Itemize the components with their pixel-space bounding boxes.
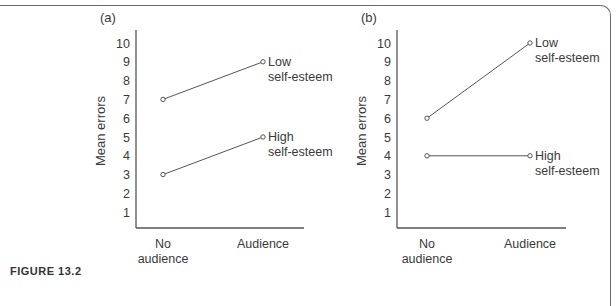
x-tick-label: No [419, 237, 435, 251]
y-tick-label: 4 [123, 149, 130, 163]
y-tick-label: 2 [384, 187, 391, 201]
x-tick-label: No [155, 237, 171, 251]
y-tick-label: 3 [123, 168, 130, 182]
x-tick-label: Audience [237, 237, 289, 251]
data-point-marker [425, 154, 429, 158]
series-line [163, 137, 263, 175]
y-tick-label: 6 [384, 112, 391, 126]
y-tick-label: 2 [123, 187, 130, 201]
series-line [163, 62, 263, 100]
data-point-marker [425, 116, 429, 120]
data-point-marker [261, 60, 265, 64]
series-label: self-esteem [268, 145, 333, 159]
figure-caption: FIGURE 13.2 [10, 265, 82, 277]
series-label: Low [535, 36, 559, 50]
data-point-marker [161, 172, 165, 176]
x-tick-label: audience [402, 252, 453, 266]
data-point-marker [528, 41, 532, 45]
series-label: self-esteem [268, 70, 333, 84]
y-tick-label: 10 [377, 37, 391, 51]
panel-label: (a) [100, 10, 116, 25]
data-point-marker [528, 154, 532, 158]
panel-label: (b) [361, 10, 377, 25]
series-label: High [535, 149, 561, 163]
x-tick-label: Audience [504, 237, 556, 251]
y-tick-label: 1 [384, 206, 391, 220]
series-line [427, 43, 530, 118]
y-tick-label: 4 [384, 149, 391, 163]
y-tick-label: 6 [123, 112, 130, 126]
data-point-marker [261, 135, 265, 139]
series-label: self-esteem [535, 164, 600, 178]
y-axis-label: Mean errors [354, 95, 369, 166]
y-tick-label: 9 [123, 55, 130, 69]
y-tick-label: 8 [384, 74, 391, 88]
series-label: High [268, 130, 294, 144]
x-tick-label: audience [138, 252, 189, 266]
y-tick-label: 3 [384, 168, 391, 182]
y-tick-label: 7 [384, 93, 391, 107]
y-tick-label: 5 [123, 131, 130, 145]
series-label: self-esteem [535, 51, 600, 65]
series-label: Low [268, 55, 292, 69]
y-tick-label: 7 [123, 93, 130, 107]
y-tick-label: 9 [384, 55, 391, 69]
data-point-marker [161, 97, 165, 101]
y-tick-label: 10 [116, 37, 130, 51]
y-axis-label: Mean errors [93, 95, 108, 166]
y-tick-label: 5 [384, 131, 391, 145]
y-tick-label: 8 [123, 74, 130, 88]
y-tick-label: 1 [123, 206, 130, 220]
